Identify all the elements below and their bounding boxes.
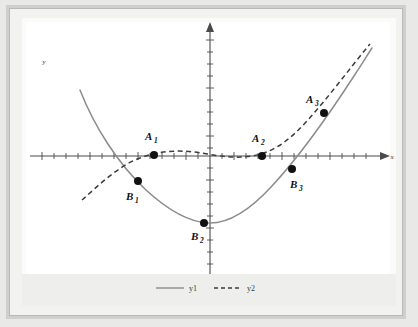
series-y2-curve	[82, 44, 370, 200]
data-point-B1	[134, 177, 142, 185]
point-label-B2: B	[190, 230, 198, 242]
x-axis-arrow-icon	[380, 152, 390, 160]
legend: y1 y2	[156, 284, 255, 293]
photo-frame: x	[0, 0, 418, 327]
x-axis: x	[30, 152, 394, 161]
data-point-B3	[288, 165, 296, 173]
data-point-A3	[320, 109, 328, 117]
data-point-A2	[258, 152, 266, 160]
legend-item-y1[interactable]: y1	[156, 284, 197, 293]
chart-svg: x	[22, 18, 396, 306]
point-label-A3: A	[305, 93, 313, 105]
point-label-B1-subscript: 1	[135, 196, 139, 205]
point-label-B3-subscript: 3	[298, 184, 303, 193]
legend-label-y1: y1	[189, 284, 197, 293]
legend-label-y2: y2	[247, 284, 255, 293]
point-label-B2-subscript: 2	[199, 236, 204, 245]
point-label-B3: B	[289, 178, 297, 190]
series-y1-curve	[80, 48, 372, 223]
data-point-B2	[200, 219, 208, 227]
point-label-A3-subscript: 3	[314, 99, 319, 108]
point-label-A1-subscript: 1	[154, 136, 158, 145]
chart-container: x	[22, 18, 396, 306]
point-label-A1: A	[144, 130, 152, 142]
x-axis-label: x	[389, 153, 394, 161]
point-label-B1: B	[125, 190, 133, 202]
data-point-A1	[150, 151, 158, 159]
y-axis-arrow-icon	[206, 22, 214, 32]
legend-item-y2[interactable]: y2	[214, 284, 255, 293]
y-axis-label: y	[41, 58, 46, 66]
point-label-A2: A	[251, 132, 259, 144]
point-label-A2-subscript: 2	[260, 138, 265, 147]
y-axis: y	[41, 22, 214, 274]
